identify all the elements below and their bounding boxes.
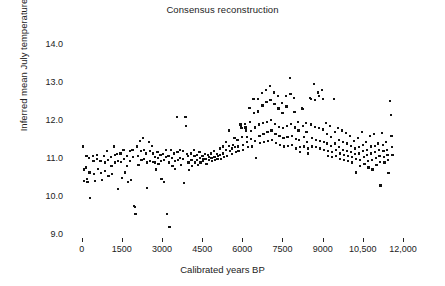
data-point xyxy=(359,165,361,167)
data-point xyxy=(242,149,244,151)
data-point xyxy=(226,155,228,157)
data-point xyxy=(339,158,341,160)
data-point xyxy=(116,153,118,155)
data-point xyxy=(157,163,159,165)
data-point xyxy=(234,146,236,148)
data-point xyxy=(170,149,172,151)
data-point xyxy=(83,180,85,182)
data-point xyxy=(246,136,248,138)
data-point xyxy=(303,136,305,138)
plot-area: 9.010.011.012.013.014.0 0150030004500600… xyxy=(71,38,411,238)
data-point xyxy=(187,155,189,157)
data-point xyxy=(335,155,337,157)
data-point xyxy=(231,153,233,155)
data-point xyxy=(171,157,173,159)
data-point xyxy=(338,139,340,141)
data-point xyxy=(198,151,200,153)
data-point xyxy=(245,129,247,131)
data-point xyxy=(378,155,380,157)
y-tick-label: 14.0 xyxy=(31,39,63,49)
data-point xyxy=(389,100,391,102)
data-point xyxy=(313,83,315,85)
data-point xyxy=(107,159,109,161)
data-point xyxy=(349,135,351,137)
data-point xyxy=(208,159,210,161)
data-point xyxy=(244,126,246,128)
data-point xyxy=(334,131,336,133)
data-point xyxy=(318,127,320,129)
data-point xyxy=(390,135,392,137)
data-point xyxy=(366,149,368,151)
data-point xyxy=(122,149,124,151)
data-point xyxy=(242,144,244,146)
data-point xyxy=(262,122,264,124)
data-point xyxy=(155,168,157,170)
data-point xyxy=(93,173,95,175)
data-point xyxy=(154,161,156,163)
data-point xyxy=(119,152,121,154)
data-point xyxy=(174,160,176,162)
data-point xyxy=(358,152,360,154)
data-point xyxy=(355,171,357,173)
data-point xyxy=(289,77,291,79)
data-point xyxy=(111,173,113,175)
data-point xyxy=(329,125,331,127)
data-point xyxy=(298,139,300,141)
data-point xyxy=(391,146,393,148)
data-point xyxy=(219,154,221,156)
data-point xyxy=(346,142,348,144)
x-tick-mark xyxy=(403,238,404,242)
data-point xyxy=(182,158,184,160)
data-point xyxy=(196,159,198,161)
data-point xyxy=(359,159,361,161)
data-point xyxy=(337,127,339,129)
data-point xyxy=(350,151,352,153)
data-point xyxy=(254,140,256,142)
data-point xyxy=(353,140,355,142)
data-point xyxy=(143,149,145,151)
data-point xyxy=(187,161,189,163)
data-point xyxy=(237,145,239,147)
data-point xyxy=(326,133,328,135)
data-point xyxy=(104,170,106,172)
data-point xyxy=(179,157,181,159)
data-point xyxy=(321,89,323,91)
x-tick-label: 12,000 xyxy=(379,244,427,255)
data-point xyxy=(339,152,341,154)
data-point xyxy=(379,161,381,163)
data-point xyxy=(233,137,235,139)
data-point xyxy=(297,121,299,123)
data-point xyxy=(182,150,184,152)
data-point xyxy=(319,140,321,142)
data-point xyxy=(274,123,276,125)
data-point xyxy=(188,169,190,171)
data-point xyxy=(190,152,192,154)
data-point xyxy=(106,150,108,152)
data-point xyxy=(334,142,336,144)
data-point xyxy=(151,145,153,147)
data-point xyxy=(113,145,115,147)
data-point xyxy=(162,153,164,155)
data-point xyxy=(375,164,377,166)
data-point xyxy=(257,98,259,100)
data-point xyxy=(366,154,368,156)
x-tick-mark xyxy=(122,238,123,242)
data-point xyxy=(184,116,186,118)
data-point xyxy=(250,130,252,132)
data-point xyxy=(387,172,389,174)
data-point xyxy=(255,157,257,159)
data-point xyxy=(166,213,168,215)
data-point xyxy=(273,91,275,93)
data-point xyxy=(287,145,289,147)
data-point xyxy=(367,166,369,168)
data-point xyxy=(335,149,337,151)
data-point xyxy=(330,136,332,138)
data-point xyxy=(223,156,225,158)
x-tick-mark xyxy=(363,238,364,242)
data-point xyxy=(299,151,301,153)
data-point xyxy=(277,95,279,97)
data-point xyxy=(369,135,371,137)
data-point xyxy=(168,226,170,228)
data-point xyxy=(216,158,218,160)
data-point xyxy=(350,145,352,147)
